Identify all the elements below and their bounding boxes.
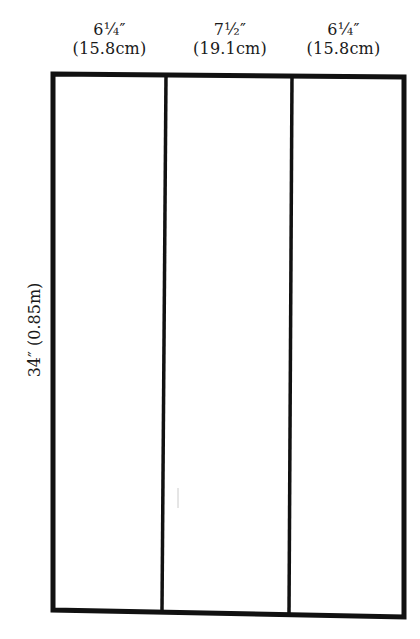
column-divider-1 — [162, 75, 166, 611]
column-divider-2 — [289, 76, 292, 614]
pattern-border — [53, 74, 404, 617]
pattern-outline — [0, 0, 420, 639]
